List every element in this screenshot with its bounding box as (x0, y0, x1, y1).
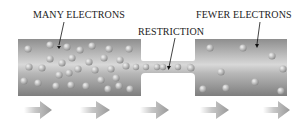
flow-arrow-2 (80, 101, 110, 119)
flow-arrow-4 (200, 101, 229, 119)
flow-arrow-3 (140, 101, 169, 119)
conductor-diagram (0, 0, 307, 129)
flow-arrow-5 (263, 101, 290, 119)
flow-arrows (24, 101, 290, 119)
flow-arrow-1 (24, 101, 52, 119)
